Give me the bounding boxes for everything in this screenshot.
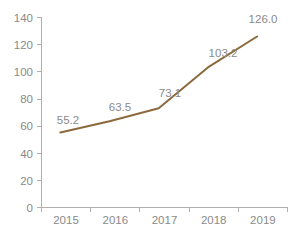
y-tick-label-100: 100: [14, 66, 33, 78]
y-tick-label-120: 120: [14, 39, 33, 51]
x-tick-label-2015: 2015: [53, 214, 79, 226]
data-label-2018: 103.2: [209, 47, 238, 59]
data-label-2016: 63.5: [109, 101, 131, 113]
x-tick-label-2018: 2018: [201, 214, 227, 226]
x-tick-label-2016: 2016: [103, 214, 129, 226]
x-tick-label-2017: 2017: [152, 214, 178, 226]
y-tick-label-60: 60: [20, 120, 33, 132]
y-tick-label-20: 20: [20, 175, 33, 187]
y-tick-label-0: 0: [27, 202, 33, 214]
y-tick-label-140: 140: [14, 12, 33, 24]
data-label-2019: 126.0: [249, 13, 278, 25]
line-chart: 140 120 100 80 60 40 20 0 2015 2016 2017…: [0, 0, 295, 237]
data-label-2015: 55.2: [57, 114, 79, 126]
data-label-2017: 73.1: [159, 87, 181, 99]
y-tick-label-40: 40: [20, 148, 33, 160]
x-tick-label-2019: 2019: [250, 214, 276, 226]
chart-background: [0, 0, 295, 237]
chart-canvas: 140 120 100 80 60 40 20 0 2015 2016 2017…: [0, 0, 295, 237]
y-tick-label-80: 80: [20, 93, 33, 105]
